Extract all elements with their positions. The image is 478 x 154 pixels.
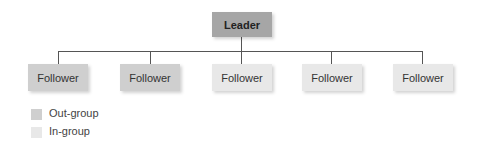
follower-connector — [150, 51, 151, 64]
follower-connector — [331, 51, 332, 64]
out-group-swatch — [31, 109, 42, 120]
in-group-label: In-group — [49, 125, 90, 137]
follower-box-in-group: Follower — [302, 64, 362, 91]
leader-box: Leader — [212, 12, 272, 37]
leader-connector — [241, 37, 242, 52]
follower-connector — [58, 51, 59, 64]
follower-box-in-group: Follower — [212, 64, 272, 91]
follower-box-in-group: Follower — [393, 64, 453, 91]
follower-connector — [422, 51, 423, 64]
follower-box-out-group: Follower — [120, 64, 180, 91]
follower-box-out-group: Follower — [28, 64, 88, 91]
in-group-swatch — [31, 127, 42, 138]
out-group-label: Out-group — [49, 107, 99, 119]
follower-connector — [241, 51, 242, 64]
